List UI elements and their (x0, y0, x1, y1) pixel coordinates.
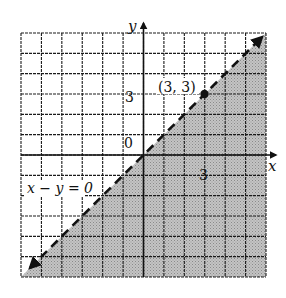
origin-label: 0 (124, 135, 133, 151)
equation-label: x − y = 0 (27, 180, 93, 196)
point-3-3 (200, 90, 208, 98)
y-tick-label-3: 3 (125, 89, 134, 105)
x-axis-label: x (268, 157, 277, 175)
x-tick-label-3: 3 (199, 167, 208, 183)
point-label: (3, 3) (158, 79, 196, 95)
y-axis-label: y (127, 17, 137, 35)
graph-canvas: y x 0 3 3 (3, 3) x − y = 0 (0, 0, 286, 298)
